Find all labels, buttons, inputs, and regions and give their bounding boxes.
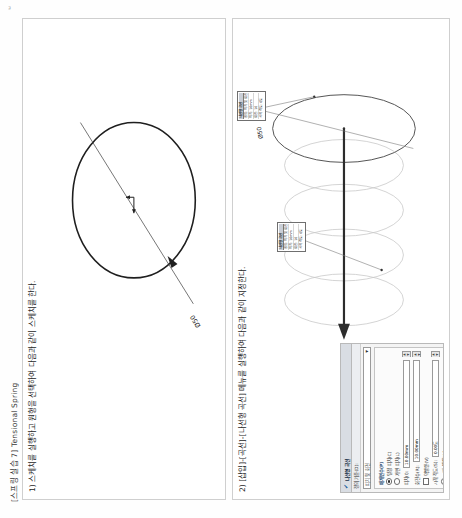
radio-variable-pitch-icon[interactable] [394, 479, 401, 486]
field-start-angle-label: 시작 각도(S): [432, 460, 438, 485]
document-page: [스프링 실습 7] Tensional Spring ␣ 1) 스케치를 실행… [0, 0, 462, 518]
field-start-angle-value[interactable]: 0.00도 [432, 360, 439, 457]
callout-right-row-4: 시작 각도: 0도 [259, 93, 263, 119]
field-revolutions-stepper[interactable]: ▲▼ [412, 351, 421, 357]
definition-select-value: 피치 및 회전 [364, 463, 370, 486]
property-manager-titlebar: ✔ 나선형 곡선 [341, 344, 352, 492]
step-1-drawing [23, 19, 225, 499]
radio-constant-pitch[interactable]: 일정 피치(C) [386, 351, 393, 485]
radio-clockwise[interactable]: 시계 방향(W) [441, 351, 444, 485]
parameters-group-title: 매개변수(P) [378, 351, 384, 485]
field-revolutions-value[interactable]: 10.00mm [413, 360, 420, 462]
check-icon[interactable]: ✔ [343, 484, 349, 489]
page-corner-mark: ␣ [4, 6, 11, 10]
callout-left: 나선형 곡선 정의: 피치 및 회전 피치: 10mm 회전: 10 시작 각도… [277, 222, 306, 252]
rotated-page-content: [스프링 실습 7] Tensional Spring ␣ 1) 스케치를 실행… [0, 0, 462, 518]
radio-clockwise-label: 시계 방향(W) [441, 451, 444, 476]
field-start-angle[interactable]: 시작 각도(S): 0.00도 ▲▼ [431, 351, 440, 485]
field-pitch-label: 피치(I): [403, 471, 409, 485]
step-block-1: 1) 스케치를 실행하고 원형을 선택하여 다음과 같이 스케치를 한다. Ø [22, 18, 226, 500]
helix-property-manager[interactable]: ✔ 나선형 곡선 정의 기준(D): 피치 및 회전 ▼ 매개변수(P) 일정 … [340, 343, 444, 493]
checkbox-reverse-direction-label: 역방향(V) [423, 457, 429, 475]
definition-select[interactable]: 피치 및 회전 ▼ [363, 347, 371, 489]
definition-label: 정의 기준(D): [352, 344, 361, 492]
checkbox-reverse-direction[interactable]: 역방향(V) [423, 351, 430, 485]
callout-right: 나선형 곡선 정의: 피치 및 회전 피치: 10mm 회전: 10 시작 각도… [237, 91, 266, 121]
step-block-2: 2) [삽입]-[곡선]-[나선형 곡선] 메뉴를 실행하여 다음과 같이 지정… [232, 18, 450, 500]
field-revolutions-label: 회전수(R): [414, 465, 420, 485]
callout-left-row-4: 시작 각도: 0도 [299, 224, 303, 250]
field-pitch[interactable]: 피치(I): 10.00mm ▲▼ [402, 351, 411, 485]
page-title: [스프링 실습 7] Tensional Spring [8, 383, 19, 502]
chevron-down-icon[interactable]: ▼ [365, 350, 369, 353]
field-revolutions[interactable]: 회전수(R): 10.00mm ▲▼ [412, 351, 421, 485]
field-start-angle-stepper[interactable]: ▲▼ [431, 351, 440, 357]
checkbox-reverse-direction-icon[interactable] [423, 479, 430, 486]
field-pitch-value[interactable]: 10.00mm [403, 360, 410, 468]
radio-constant-pitch-icon[interactable] [386, 479, 393, 486]
property-manager-title: 나선형 곡선 [343, 459, 350, 481]
radio-variable-pitch[interactable]: 가변 피치(L) [394, 351, 401, 485]
parameters-group: 매개변수(P) 일정 피치(C) 가변 피치(L) 피치(I): 10.00mm… [374, 347, 445, 489]
radio-constant-pitch-label: 일정 피치(C) [386, 452, 392, 476]
radio-clockwise-icon[interactable] [441, 479, 444, 486]
radio-variable-pitch-label: 가변 피치(L) [394, 452, 400, 475]
field-pitch-stepper[interactable]: ▲▼ [402, 351, 411, 357]
